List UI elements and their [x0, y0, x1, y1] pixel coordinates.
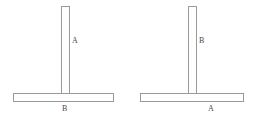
- figure-right: B A: [128, 0, 256, 122]
- left-vertical-member-label: A: [72, 36, 78, 45]
- right-horizontal-member: [140, 93, 244, 102]
- right-vertical-member-label: B: [199, 36, 205, 45]
- left-vertical-member: [61, 6, 70, 97]
- diagram-canvas: A B B A: [0, 0, 256, 122]
- right-vertical-member: [188, 6, 197, 97]
- right-horizontal-member-label: A: [208, 104, 214, 113]
- left-horizontal-member-label: B: [62, 104, 68, 113]
- figure-left: A B: [0, 0, 128, 122]
- left-horizontal-member: [13, 93, 114, 102]
